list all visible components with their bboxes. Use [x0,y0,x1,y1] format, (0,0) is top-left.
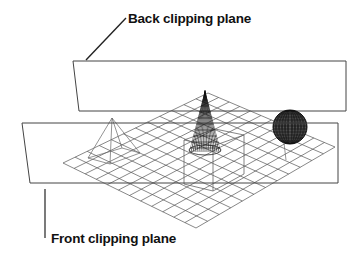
clipping-planes-diagram [0,0,359,262]
box-wireframe [184,129,244,191]
back-clipping-plane [73,61,346,111]
back-label-leader-line [86,18,126,60]
front-clipping-plane-label: Front clipping plane [51,231,176,246]
sphere-wireframe [270,110,310,160]
back-clipping-plane-label: Back clipping plane [128,11,251,26]
